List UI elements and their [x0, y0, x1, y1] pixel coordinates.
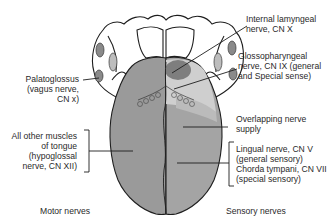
tongue — [110, 57, 222, 214]
label-internal-laryngeal: Internal lamyngeal nerve, CN X — [246, 14, 316, 34]
label-lingual-chorda: Lingual nerve, CN V (general sensory) Ch… — [236, 144, 327, 184]
label-overlapping: Overlapping nerve supply — [236, 114, 306, 134]
internal-laryngeal-region — [165, 60, 191, 80]
label-other-muscles: All other muscles of tongue (hypoglossal… — [12, 131, 77, 171]
heading-sensory-nerves: Sensory nerves — [226, 206, 286, 216]
label-palatoglossus: Palatoglossus (vagus nerve, CN x) — [25, 74, 79, 104]
label-glossopharyngeal: Glossopharyngeal nerve, CN IX (general a… — [238, 51, 321, 81]
heading-motor-nerves: Motor nerves — [40, 206, 90, 216]
